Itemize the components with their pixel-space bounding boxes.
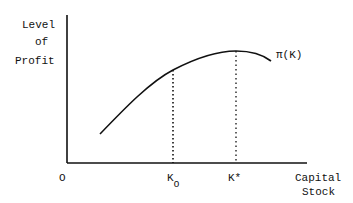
y-axis-label-line2: of [35,36,48,49]
kstar-tick-label: K* [228,172,241,185]
y-axis-label-line1: Level [22,19,55,32]
curve-label: π(K) [276,49,302,62]
k0-subscript: o [174,179,180,190]
profit-curve [100,51,271,134]
k0-tick-label: Ko [167,172,180,185]
y-axis-label-line3: Profit [15,55,55,68]
x-axis-label-line1: Capital [295,172,341,185]
k0-letter: K [167,172,174,184]
x-axis-label-line2: Stock [302,186,335,199]
origin-label: O [59,172,66,185]
